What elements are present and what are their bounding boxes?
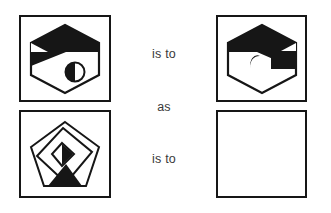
- hexagon-top-band: [228, 25, 296, 52]
- relation-label-is-to-2: is to: [133, 153, 195, 166]
- analogy-answer-box[interactable]: [216, 110, 307, 198]
- hexagon-top-band: [31, 25, 99, 52]
- answer-box-empty-area: [218, 112, 305, 196]
- analogy-panel-a[interactable]: [19, 15, 111, 102]
- relation-label-is-to-1: is to: [133, 48, 195, 61]
- relation-label-as: as: [133, 101, 195, 114]
- panel-b-figure: [218, 17, 305, 100]
- hexagon-left-block: [271, 52, 296, 69]
- hexagon-figure-a: [26, 22, 104, 96]
- pentagon-figure: [26, 116, 104, 192]
- analogy-panel-b[interactable]: [216, 15, 307, 102]
- panel-c-figure: [21, 112, 109, 196]
- analogy-puzzle-canvas: is to as is to: [0, 0, 331, 213]
- panel-a-figure: [21, 17, 109, 100]
- hexagon-figure-b: [223, 22, 301, 96]
- analogy-panel-c[interactable]: [19, 110, 111, 198]
